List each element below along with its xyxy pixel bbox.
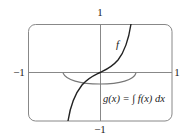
g-curve bbox=[63, 73, 136, 84]
graph: 1 −1 −1 1 f g(x) = ∫ f(x) dx bbox=[0, 0, 189, 137]
g-label: g(x) = ∫ f(x) dx bbox=[103, 93, 165, 105]
y-min-label: −1 bbox=[94, 123, 106, 135]
x-max-label: 1 bbox=[174, 66, 180, 78]
y-max-label: 1 bbox=[97, 6, 103, 18]
x-min-label: −1 bbox=[13, 66, 25, 78]
f-label: f bbox=[116, 38, 121, 50]
